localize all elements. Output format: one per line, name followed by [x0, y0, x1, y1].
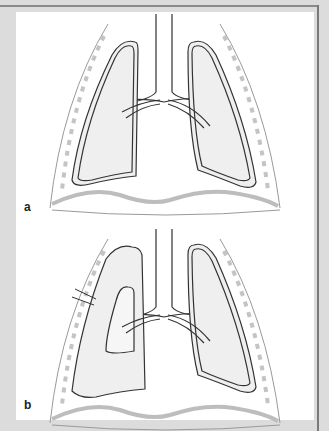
panel-b-diagram [50, 229, 280, 430]
panel-label-a: a [24, 200, 31, 214]
panel-a-diagram [50, 14, 280, 215]
panel-label-b: b [24, 398, 31, 412]
lung-diagram [0, 0, 329, 431]
